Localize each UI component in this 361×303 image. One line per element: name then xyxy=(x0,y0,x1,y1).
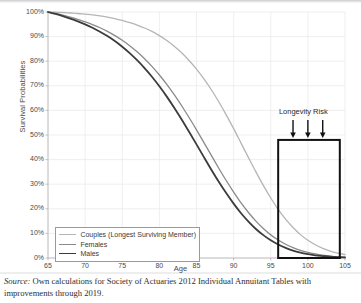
x-tick-label: 100 xyxy=(296,262,320,269)
y-tick-label: 90% xyxy=(12,32,44,39)
x-tick-label: 85 xyxy=(185,262,209,269)
survival-probability-chart: Survival Probabilities Age 0%10%20%30%40… xyxy=(0,0,361,275)
legend-line-swatch xyxy=(59,234,76,235)
legend-item[interactable]: Couples (Longest Surviving Member) xyxy=(59,230,196,240)
y-tick-label: 10% xyxy=(12,229,44,236)
figure-container: Survival Probabilities Age 0%10%20%30%40… xyxy=(0,0,361,303)
source-caption: Source: Own calculations for Society of … xyxy=(4,276,356,299)
gridlines xyxy=(48,12,345,258)
y-tick-label: 20% xyxy=(12,204,44,211)
x-tick-label: 75 xyxy=(110,262,134,269)
y-tick-label: 50% xyxy=(12,131,44,138)
source-text: Own calculations for Society of Actuarie… xyxy=(4,276,311,298)
x-tick-label: 65 xyxy=(36,262,60,269)
x-tick-label: 70 xyxy=(73,262,97,269)
y-axis-title: Survival Probabilities xyxy=(18,37,27,157)
tick-marks xyxy=(46,12,346,261)
x-tick-label: 105 xyxy=(333,262,357,269)
y-tick-label: 100% xyxy=(12,8,44,15)
legend-item[interactable]: Females xyxy=(59,240,196,250)
y-tick-label: 0% xyxy=(12,254,44,261)
legend-label: Couples (Longest Surviving Member) xyxy=(80,230,196,239)
legend-line-swatch xyxy=(59,253,76,254)
y-tick-label: 30% xyxy=(12,180,44,187)
legend-item[interactable]: Males xyxy=(59,249,196,259)
legend-line-swatch xyxy=(59,244,76,245)
chart-legend: Couples (Longest Surviving Member)Female… xyxy=(55,227,200,262)
x-tick-label: 90 xyxy=(222,262,246,269)
x-tick-label: 80 xyxy=(147,262,171,269)
x-tick-label: 95 xyxy=(259,262,283,269)
y-tick-label: 80% xyxy=(12,57,44,64)
legend-label: Males xyxy=(80,249,99,258)
y-tick-label: 60% xyxy=(12,106,44,113)
legend-label: Females xyxy=(80,240,107,249)
longevity-risk-label: Longevity Risk xyxy=(279,107,328,116)
source-word: Source: xyxy=(4,276,30,286)
y-tick-label: 40% xyxy=(12,155,44,162)
y-tick-label: 70% xyxy=(12,81,44,88)
